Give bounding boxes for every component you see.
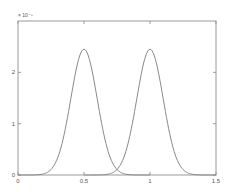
plot-area (18, 21, 216, 175)
y-scale-exponent-label: × 10⁻⁸ (18, 12, 33, 18)
y-tick-label: 1 (12, 121, 16, 127)
y-tick-label: 2 (12, 69, 16, 75)
x-tick-label: 1.5 (212, 178, 221, 184)
y-tick-label: 0 (12, 172, 16, 178)
x-tick-label: 0.5 (80, 178, 89, 184)
x-tick-label: 1 (148, 178, 152, 184)
chart: 012 00.511.5 × 10⁻⁸ (0, 0, 228, 192)
x-tick-label: 0 (16, 178, 20, 184)
